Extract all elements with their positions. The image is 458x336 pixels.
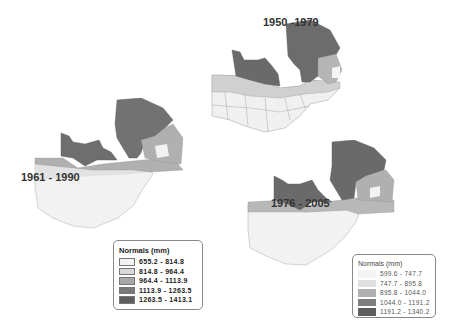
- legend-label: 599.6 - 747.7: [380, 270, 422, 277]
- legend-swatch: [119, 268, 135, 276]
- legend-label: 1044.0 - 1191.2: [380, 299, 430, 306]
- zambia-map-shape: [210, 20, 350, 135]
- legend-row: 964.4 - 1113.9: [119, 276, 202, 286]
- legend-label: 747.7 - 895.8: [380, 280, 422, 287]
- map-1961-1990: 1961 - 1990: [33, 98, 183, 233]
- legend-label: 1263.5 - 1413.1: [139, 296, 193, 303]
- legend-row: 895.8 - 1044.0: [358, 288, 435, 298]
- map-1950-1979: 1950 -1979: [210, 20, 350, 135]
- legend-row: 1044.0 - 1191.2: [358, 298, 435, 308]
- legend-swatch: [358, 289, 376, 297]
- legend-label: 814.8 - 964.4: [139, 268, 184, 275]
- legend-row: 814.8 - 964.4: [119, 267, 202, 277]
- legend-1976-2005: Normals (mm) 599.6 - 747.7 747.7 - 895.8…: [352, 254, 436, 318]
- legend-swatch: [119, 296, 135, 304]
- period-label-1961-1990: 1961 - 1990: [21, 171, 80, 183]
- legend-label: 1191.2 - 1340.2: [380, 308, 430, 315]
- legend-swatch: [119, 277, 135, 285]
- legend-swatch: [358, 280, 376, 288]
- legend-swatch: [119, 258, 135, 266]
- legend-swatch: [358, 270, 376, 278]
- period-label-1950-1979: 1950 -1979: [263, 16, 319, 28]
- legend-row: 655.2 - 814.8: [119, 257, 202, 267]
- legend-label: 895.8 - 1044.0: [380, 289, 426, 296]
- legend-row: 1263.5 - 1413.1: [119, 295, 202, 305]
- legend-label: 964.4 - 1113.9: [139, 277, 188, 284]
- map-1976-2005: 1976 - 2005: [246, 140, 396, 270]
- legend-label: 655.2 - 814.8: [139, 258, 184, 265]
- legend-row: 1113.9 - 1263.5: [119, 286, 202, 296]
- legend-title: Normals (mm): [358, 260, 435, 267]
- legend-1961-1990: Normals (mm) 655.2 - 814.8 814.8 - 964.4…: [113, 240, 203, 310]
- zambia-map-shape: [33, 98, 183, 233]
- legend-swatch: [358, 308, 376, 316]
- legend-row: 1191.2 - 1340.2: [358, 307, 435, 317]
- legend-swatch: [358, 299, 376, 307]
- period-label-1976-2005: 1976 - 2005: [271, 197, 330, 209]
- legend-row: 747.7 - 895.8: [358, 279, 435, 289]
- legend-row: 599.6 - 747.7: [358, 269, 435, 279]
- legend-swatch: [119, 287, 135, 295]
- legend-title: Normals (mm): [119, 246, 202, 255]
- legend-label: 1113.9 - 1263.5: [139, 287, 192, 294]
